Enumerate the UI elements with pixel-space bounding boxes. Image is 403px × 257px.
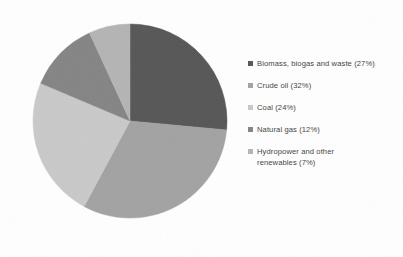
pie-chart-figure: Biomass, biogas and waste (27%)Crude oil…	[0, 0, 403, 257]
legend-swatch-icon	[248, 149, 253, 154]
legend-item: Hydropower and other renewables (7%)	[248, 146, 400, 168]
pie-chart-area	[30, 14, 230, 230]
legend-item: Crude oil (32%)	[248, 80, 400, 91]
legend-item-label: Crude oil (32%)	[257, 80, 311, 91]
legend-swatch-icon	[248, 61, 253, 66]
legend-swatch-icon	[248, 127, 253, 132]
legend-swatch-icon	[248, 105, 253, 110]
pie-slice	[130, 24, 227, 130]
legend-item: Natural gas (12%)	[248, 124, 400, 135]
pie-slice-group	[33, 24, 227, 218]
legend-item-label: Natural gas (12%)	[257, 124, 320, 135]
legend-item-label: Biomass, biogas and waste (27%)	[257, 58, 375, 69]
legend-item-label: Coal (24%)	[257, 102, 296, 113]
legend-swatch-icon	[248, 83, 253, 88]
chart-legend: Biomass, biogas and waste (27%)Crude oil…	[248, 58, 400, 168]
legend-item: Coal (24%)	[248, 102, 400, 113]
pie-svg	[30, 14, 230, 230]
legend-item-label: Hydropower and other renewables (7%)	[257, 146, 334, 168]
legend-item: Biomass, biogas and waste (27%)	[248, 58, 400, 69]
